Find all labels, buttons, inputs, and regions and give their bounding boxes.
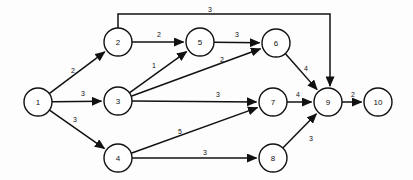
edge-weight-6-9: 4 — [304, 65, 308, 72]
edge-weight-2-5: 2 — [157, 31, 161, 38]
edge-weight-4-8: 3 — [203, 149, 207, 156]
edge-weight-9-10: 2 — [351, 91, 355, 98]
node-5[interactable]: 5 — [186, 28, 214, 56]
node-3[interactable]: 3 — [104, 87, 132, 115]
node-label-8: 8 — [271, 154, 276, 163]
node-label-10: 10 — [374, 98, 383, 107]
edge-weight-3-5: 1 — [152, 62, 156, 69]
edge-weight-3-6: 2 — [220, 56, 224, 63]
node-10[interactable]: 10 — [364, 88, 392, 116]
node-7[interactable]: 7 — [259, 88, 287, 116]
node-label-2: 2 — [116, 38, 121, 47]
node-4[interactable]: 4 — [104, 144, 132, 172]
node-8[interactable]: 8 — [259, 144, 287, 172]
edge-weight-4-7: 5 — [178, 128, 182, 135]
edge-3-to-7 — [132, 101, 257, 102]
node-label-6: 6 — [274, 39, 279, 48]
edge-4-to-7 — [131, 108, 257, 154]
edge-1-to-2 — [49, 52, 105, 94]
edge-1-to-4 — [49, 110, 104, 149]
edge-weight-8-9: 3 — [309, 135, 313, 142]
node-9[interactable]: 9 — [314, 88, 342, 116]
node-label-1: 1 — [36, 98, 41, 107]
edge-weight-3-7: 3 — [216, 91, 220, 98]
network-diagram: 233231233453432 12345678910 — [0, 0, 413, 180]
node-label-3: 3 — [116, 97, 121, 106]
edge-8-to-9 — [283, 114, 317, 148]
edge-weight-2-9: 3 — [208, 6, 212, 13]
edge-2-to-9 — [118, 14, 330, 86]
node-6[interactable]: 6 — [262, 29, 290, 57]
edge-weight-1-4: 3 — [73, 116, 77, 123]
edge-5-to-6 — [214, 42, 260, 43]
edge-6-to-9 — [285, 54, 317, 90]
nodes-layer: 12345678910 — [24, 28, 392, 172]
graph-canvas: 233231233453432 12345678910 — [0, 0, 413, 180]
node-1[interactable]: 1 — [24, 88, 52, 116]
node-2[interactable]: 2 — [104, 28, 132, 56]
node-label-5: 5 — [198, 38, 203, 47]
edge-weight-1-3: 3 — [81, 90, 85, 97]
node-label-4: 4 — [116, 154, 121, 163]
edge-weight-5-6: 3 — [235, 31, 239, 38]
node-label-9: 9 — [326, 98, 331, 107]
edge-1-to-3 — [52, 101, 102, 102]
edge-weight-7-9: 4 — [296, 91, 300, 98]
edge-weight-1-2: 2 — [71, 67, 75, 74]
node-label-7: 7 — [271, 98, 276, 107]
